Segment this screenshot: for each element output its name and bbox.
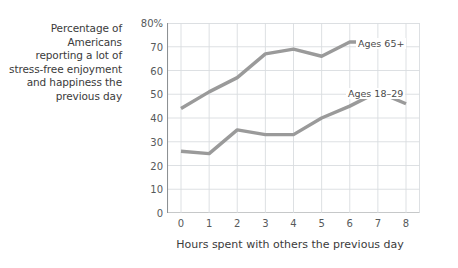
plot-area	[167, 23, 420, 213]
x-axis-tick-label: 6	[338, 218, 362, 229]
y-axis-tick-label: 20	[119, 160, 163, 171]
x-axis-tick-label: 2	[225, 218, 249, 229]
caption-line: reporting a lot of	[6, 49, 122, 63]
caption-line: stress-free enjoyment	[6, 63, 122, 77]
y-axis-tick-label: 60	[119, 65, 163, 76]
y-axis-tick-label: 0	[119, 208, 163, 219]
x-axis-tick-label: 5	[310, 218, 334, 229]
y-axis-tick-label: 80%	[119, 18, 163, 29]
caption-line: and happiness the	[6, 76, 122, 90]
chart-caption: Percentage of Americans reporting a lot …	[6, 22, 122, 103]
x-axis-tick-label: 4	[282, 218, 306, 229]
x-axis-tick-labels: 012345678	[167, 218, 420, 234]
y-axis-tick-label: 50	[119, 89, 163, 100]
caption-line: previous day	[6, 90, 122, 104]
y-axis-tick-label: 40	[119, 113, 163, 124]
series-label-ages-65-plus: Ages 65+	[356, 38, 406, 49]
x-axis-tick-label: 8	[394, 218, 418, 229]
y-axis-tick-labels: 01020304050607080%	[117, 23, 163, 213]
y-axis-tick-label: 30	[119, 136, 163, 147]
chart-figure: Percentage of Americans reporting a lot …	[0, 0, 458, 268]
data-series-layer	[167, 23, 420, 213]
series-line-ages-18-29	[181, 92, 406, 154]
x-axis-tick-label: 0	[169, 218, 193, 229]
x-axis-title: Hours spent with others the previous day	[140, 238, 440, 251]
series-label-ages-18-29: Ages 18–29	[346, 88, 405, 99]
x-axis-tick-label: 7	[366, 218, 390, 229]
caption-line: Percentage of Americans	[6, 22, 122, 49]
x-axis-tick-label: 1	[197, 218, 221, 229]
x-axis-tick-label: 3	[253, 218, 277, 229]
y-axis-tick-label: 10	[119, 184, 163, 195]
y-axis-tick-label: 70	[119, 41, 163, 52]
